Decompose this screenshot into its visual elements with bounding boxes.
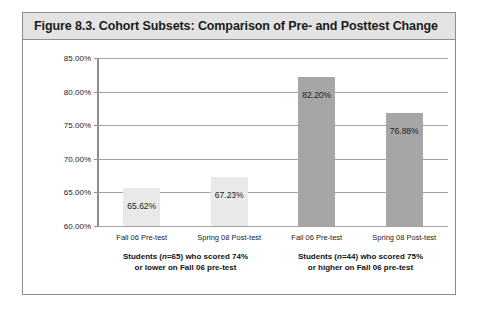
y-axis-tick [94,192,98,193]
bar-value-label: 82.20% [302,90,331,100]
gridline [98,58,448,59]
page-title: Figure 8.3. Cohort Subsets: Comparison o… [23,19,438,33]
y-axis-tick [94,125,98,126]
gridline [98,92,448,93]
y-axis-line [97,58,99,226]
group-caption: Students (n=44) who scored 75%or higher … [298,252,423,274]
y-axis-tick-label: 85.00% [64,54,91,63]
group-caption-line: Students (n=44) who scored 75% [298,252,423,263]
y-axis-tick-label: 80.00% [64,87,91,96]
y-axis-tick-label: 75.00% [64,121,91,130]
x-axis-tick-label: Spring 08 Post-test [372,233,436,242]
group-caption-line: or higher on Fall 06 pre-test [298,263,423,274]
x-axis-tick-label: Spring 08 Post-test [197,233,261,242]
bar [211,177,248,226]
plot-wrapper: 85.00%80.00%75.00%70.00%65.00%60.00% 65.… [23,40,455,294]
bar-value-label: 65.62% [127,201,156,211]
group-caption-line: or lower on Fall 06 pre-test [123,263,248,274]
figure-container: Figure 8.3. Cohort Subsets: Comparison o… [22,12,456,295]
y-axis-tick [94,58,98,59]
y-axis-tick [94,92,98,93]
y-axis-tick [94,159,98,160]
y-axis-tick-label: 70.00% [64,154,91,163]
chart-plot-area: 85.00%80.00%75.00%70.00%65.00%60.00% 65.… [98,58,448,226]
group-caption: Students (n=65) who scored 74%or lower o… [123,252,248,274]
figure-title-bar: Figure 8.3. Cohort Subsets: Comparison o… [23,13,455,40]
y-axis-tick-label: 65.00% [64,188,91,197]
y-axis-tick-label: 60.00% [64,222,91,231]
group-caption-line: Students (n=65) who scored 74% [123,252,248,263]
bar-value-label: 67.23% [215,190,244,200]
x-axis-tick-label: Fall 06 Pre-test [116,233,167,242]
y-axis-tick [94,226,98,227]
x-axis-tick-label: Fall 06 Pre-test [291,233,342,242]
gridline [98,226,448,227]
bar-value-label: 76.88% [390,126,419,136]
